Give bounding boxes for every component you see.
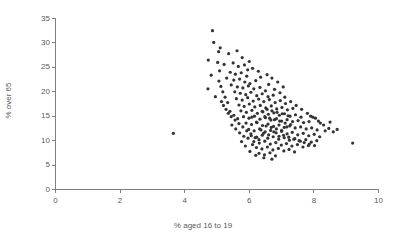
- data-point: [291, 107, 294, 110]
- data-point: [256, 112, 259, 115]
- data-point: [286, 114, 289, 117]
- data-point: [252, 87, 255, 90]
- data-point: [284, 121, 287, 124]
- data-point: [280, 129, 283, 132]
- data-point: [246, 96, 249, 99]
- data-point: [285, 132, 288, 135]
- data-point: [275, 111, 278, 114]
- data-point: [230, 83, 233, 86]
- data-point: [336, 128, 339, 131]
- data-point: [258, 118, 261, 121]
- data-point: [264, 89, 267, 92]
- data-point: [277, 138, 280, 141]
- data-point: [322, 123, 325, 126]
- data-point: [219, 85, 222, 88]
- data-point: [211, 29, 214, 32]
- data-point: [268, 98, 271, 101]
- data-point: [293, 150, 296, 153]
- data-point: [247, 84, 250, 87]
- data-point: [324, 129, 327, 132]
- data-point: [265, 73, 268, 76]
- y-tick-label: 20: [32, 87, 50, 97]
- data-point: [246, 68, 249, 71]
- data-point: [248, 150, 251, 153]
- data-point: [295, 104, 298, 107]
- data-point: [212, 41, 215, 44]
- data-point: [274, 141, 277, 144]
- data-point: [261, 92, 264, 95]
- data-point: [239, 92, 242, 95]
- data-point: [283, 96, 286, 99]
- data-point: [300, 108, 303, 111]
- data-point: [259, 104, 262, 107]
- data-point: [289, 100, 292, 103]
- data-point: [235, 49, 238, 52]
- data-point: [296, 119, 299, 122]
- data-point: [254, 136, 257, 139]
- data-point: [274, 101, 277, 104]
- data-point: [251, 143, 254, 146]
- data-point: [305, 127, 308, 130]
- data-point: [278, 114, 281, 117]
- data-point: [314, 117, 317, 120]
- data-point: [241, 86, 244, 89]
- data-point: [243, 105, 246, 108]
- data-point: [223, 96, 226, 99]
- data-point: [248, 102, 251, 105]
- x-axis-title: % aged 16 to 19: [0, 221, 406, 230]
- data-point: [241, 56, 244, 59]
- scatter-chart: 05101520253035 0246810 % aged 16 to 19 %…: [0, 0, 406, 241]
- y-tick-label: 0: [32, 185, 50, 195]
- data-point: [310, 126, 313, 129]
- data-point: [216, 61, 219, 64]
- data-point: [233, 90, 236, 93]
- data-point: [226, 101, 229, 104]
- data-point: [243, 80, 246, 83]
- data-point: [244, 93, 247, 96]
- data-point: [254, 154, 257, 157]
- data-point: [245, 129, 248, 132]
- data-point: [240, 71, 243, 74]
- data-point: [289, 123, 292, 126]
- data-point: [237, 103, 240, 106]
- data-point: [254, 79, 257, 82]
- data-point: [290, 144, 293, 147]
- y-axis-title: % over 65: [4, 71, 13, 131]
- data-point: [275, 107, 278, 110]
- data-point: [263, 115, 266, 118]
- data-point: [273, 118, 276, 121]
- data-point: [244, 144, 247, 147]
- data-point: [257, 138, 260, 141]
- data-point: [272, 130, 275, 133]
- data-point: [307, 120, 310, 123]
- data-point: [274, 154, 277, 157]
- data-point: [222, 104, 225, 107]
- data-point: [299, 125, 302, 128]
- data-point: [214, 95, 217, 98]
- data-point: [297, 139, 300, 142]
- data-point: [236, 85, 239, 88]
- data-point: [230, 123, 233, 126]
- y-tick-label: 25: [32, 62, 50, 72]
- data-point: [302, 132, 305, 135]
- data-point: [246, 137, 249, 140]
- data-point: [296, 143, 299, 146]
- data-point: [270, 77, 273, 80]
- data-point: [261, 110, 264, 113]
- data-point: [275, 127, 278, 130]
- data-point: [282, 134, 285, 137]
- data-point: [304, 138, 307, 141]
- axes-group: [52, 19, 379, 194]
- data-point: [328, 120, 331, 123]
- data-point: [279, 99, 282, 102]
- data-point: [316, 128, 319, 131]
- data-point: [238, 131, 241, 134]
- data-point: [285, 125, 288, 128]
- data-point: [273, 88, 276, 91]
- data-point: [253, 105, 256, 108]
- data-point: [267, 113, 270, 116]
- x-tick-label: 0: [46, 196, 66, 206]
- data-point: [242, 135, 245, 138]
- data-point: [220, 100, 223, 103]
- data-point: [277, 135, 280, 138]
